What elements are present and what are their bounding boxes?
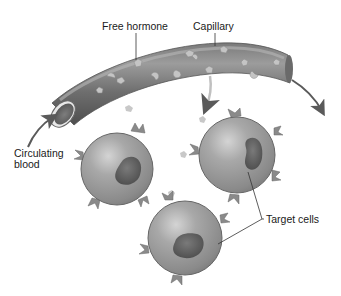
outflow-arrow-icon [292, 80, 322, 111]
circulating-blood-label: Circulating blood [14, 148, 74, 170]
capillary-label: Capillary [193, 21, 234, 32]
inflow-arrow-icon [28, 117, 53, 147]
free-hormone-label: Free hormone [102, 21, 168, 32]
target-cell-1 [74, 123, 153, 209]
circulating-blood-label-line2: blood [14, 158, 40, 170]
target-cells-label: Target cells [266, 214, 319, 225]
diffusion-arrow [206, 76, 211, 108]
target-cell-3 [139, 191, 230, 285]
capillary [46, 43, 293, 132]
